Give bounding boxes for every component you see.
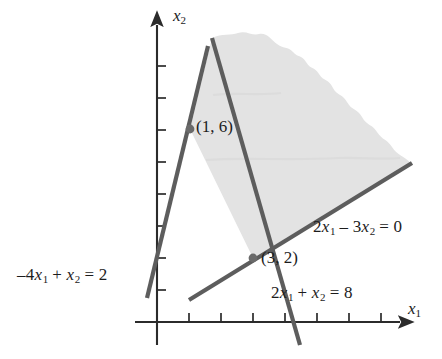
eq-c-sub1: 1 [43,273,49,285]
eq-b-operator: + [293,283,312,302]
vertex-dot-1-6 [186,125,195,134]
eq-c-var2: x [67,265,75,284]
eq-b-coeff: 2 [271,283,280,302]
eq-a-sub2: 2 [370,225,376,237]
eq-c-rhs: = 2 [80,265,107,284]
eq-a-rhs: = 0 [375,217,402,236]
vertex-dot-3-2 [249,254,258,263]
equation-label-2x1-minus-3x2-eq-0: 2x1 – 3x2 = 0 [313,217,402,237]
linear-programming-figure: x2 x1 (1, 6) (3, 2) 2x1 – 3x2 = 0 2x1 + … [0,0,442,359]
y-axis-label-text: x [173,6,181,25]
x-axis-ticks [189,313,381,322]
eq-b-sub1: 1 [288,291,294,303]
vertex-label-1-6: (1, 6) [196,117,233,137]
eq-a-sub1: 1 [330,225,336,237]
eq-b-sub2: 2 [320,291,326,303]
eq-c-var1: x [34,265,42,284]
y-axis-label-subscript: 2 [181,14,187,26]
eq-c-operator: + [48,265,67,284]
eq-a-operator: – 3 [335,217,361,236]
eq-b-var1: x [280,283,288,302]
eq-a-coeff: 2 [313,217,322,236]
x-axis-label: x1 [408,299,421,319]
eq-c-coeff: –4 [17,265,34,284]
equation-label-2x1-plus-x2-eq-8: 2x1 + x2 = 8 [271,283,353,303]
equation-label-neg4x1-plus-x2-eq-2: –4x1 + x2 = 2 [17,265,107,285]
eq-b-var2: x [312,283,320,302]
y-axis-label: x2 [173,6,186,26]
eq-a-var2: x [361,217,369,236]
vertex-label-3-2: (3, 2) [261,248,298,268]
x-axis-label-subscript: 1 [416,307,422,319]
eq-c-sub2: 2 [75,273,81,285]
eq-a-var1: x [322,217,330,236]
figure-canvas [0,0,442,359]
x-axis-label-text: x [408,299,416,318]
eq-b-rhs: = 8 [325,283,352,302]
